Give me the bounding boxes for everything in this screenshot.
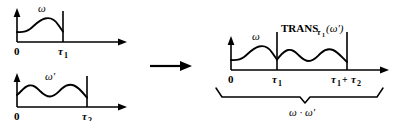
svg-text:τ: τ — [317, 28, 321, 37]
concatenation-panel-origin-label: 0 — [228, 73, 234, 85]
omega-prime-panel-y-axis — [14, 73, 21, 107]
omega-panel-x-axis — [17, 39, 127, 46]
svg-text:1: 1 — [322, 32, 325, 38]
omega-prime-panel-curve-label: ω′ — [45, 70, 56, 82]
svg-text:2: 2 — [88, 116, 92, 121]
omega-prime-panel-x-axis — [17, 104, 127, 111]
concatenation-panel-tau1-label: τ 1 — [272, 73, 282, 88]
omega-panel-curve-label: ω — [38, 2, 46, 14]
omega-prime-panel-origin-label: 0 — [14, 110, 20, 121]
concatenation-panel-brace — [216, 88, 383, 103]
svg-text:1: 1 — [64, 51, 68, 60]
concatenation-panel-trans-label: TRANS τ 1 (ω′) — [281, 22, 344, 38]
waveform-concatenation-figure: ω 0 τ 1 ω′ 0 τ 2 — [0, 0, 403, 121]
concatenation-panel-tau1plustau2-label: τ 1 + τ 2 — [331, 73, 361, 88]
concatenation-panel-x-axis — [231, 67, 389, 74]
svg-text:1: 1 — [337, 79, 341, 88]
omega-panel-waveform — [17, 18, 63, 32]
concatenation-panel-y-axis — [228, 36, 235, 70]
svg-text:1: 1 — [278, 79, 282, 88]
omega-panel-tau1-label: τ 1 — [58, 45, 68, 60]
svg-text:TRANS: TRANS — [281, 22, 318, 34]
omega-prime-panel-waveform — [17, 85, 87, 98]
svg-text:+: + — [342, 74, 348, 85]
svg-text:2: 2 — [357, 79, 361, 88]
omega-panel: ω 0 τ 1 — [14, 2, 127, 60]
concatenation-panel-omega-segment — [231, 46, 277, 60]
transform-arrow — [150, 61, 192, 71]
omega-panel-origin-label: 0 — [14, 45, 20, 57]
svg-text:(ω′): (ω′) — [326, 22, 344, 35]
concatenation-panel-brace-label: ω · ω′ — [289, 106, 316, 118]
figure-canvas: ω 0 τ 1 ω′ 0 τ 2 — [0, 0, 403, 121]
concatenation-panel-omega-label: ω — [252, 30, 260, 42]
omega-prime-panel-tau2-label: τ 2 — [82, 110, 92, 121]
omega-prime-panel: ω′ 0 τ 2 — [14, 70, 127, 121]
concatenation-panel: ω TRANS τ 1 (ω′) 0 τ 1 τ 1 + τ 2 — [216, 22, 389, 118]
concatenation-panel-omega-prime-segment — [277, 49, 347, 62]
omega-panel-y-axis — [14, 8, 21, 42]
